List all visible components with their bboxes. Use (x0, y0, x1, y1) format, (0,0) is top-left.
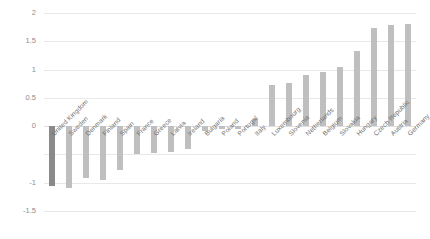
x-axis-labels-group: United KingdomSwedenDenmarkFinlandSpainF… (44, 132, 416, 239)
y-axis-tick-label: -1 (2, 179, 36, 187)
y-axis-tick-label: 0.5 (2, 94, 36, 102)
y-axis-tick-label: 2 (2, 9, 36, 17)
bar (269, 85, 275, 126)
y-axis-tick-label: 1.5 (2, 37, 36, 45)
bar (405, 24, 411, 126)
bar (371, 28, 377, 126)
y-axis-tick-label: -1.5 (2, 207, 36, 215)
y-axis-tick-label: 1 (2, 66, 36, 74)
y-axis-tick-label: 0 (2, 122, 36, 130)
